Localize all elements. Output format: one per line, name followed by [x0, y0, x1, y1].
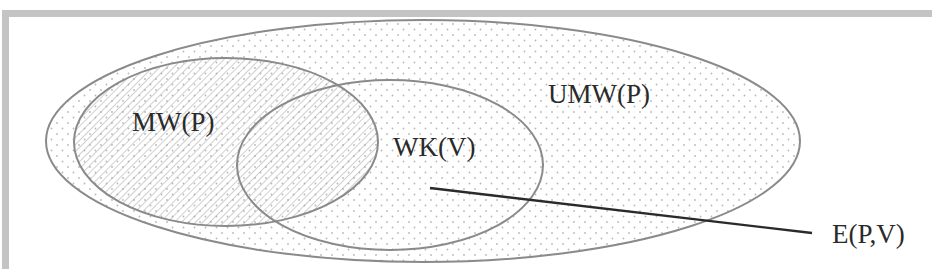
mw-set-ellipse [74, 58, 378, 226]
wk-label: WK(V) [393, 132, 475, 162]
epv-label: E(P,V) [832, 219, 905, 249]
venn-diagram: UMW(P) MW(P) WK(V) E(P,V) [0, 0, 932, 269]
umw-label: UMW(P) [548, 79, 650, 109]
mw-label: MW(P) [132, 107, 215, 137]
